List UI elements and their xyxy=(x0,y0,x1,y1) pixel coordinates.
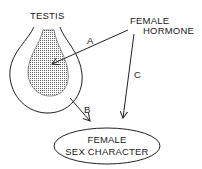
hormone-pathway-diagram: TESTIS FEMALE HORMONE A C B FEMALE SEX C… xyxy=(0,0,202,169)
female-sex-character-label-line1: FEMALE xyxy=(87,134,126,145)
testis-inner-region xyxy=(28,30,68,96)
arrow-c-label: C xyxy=(134,69,141,80)
female-hormone-label-line2: HORMONE xyxy=(143,25,194,36)
arrow-b-label: B xyxy=(84,104,91,115)
female-sex-character-label-line2: SEX CHARACTER xyxy=(65,146,148,157)
testis-label: TESTIS xyxy=(30,10,64,21)
arrow-c xyxy=(123,34,134,118)
arrow-a-label: A xyxy=(87,35,94,46)
